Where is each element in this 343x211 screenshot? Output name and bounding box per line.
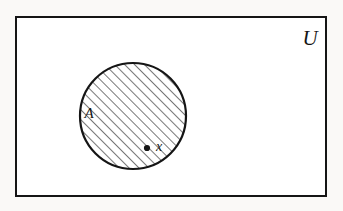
set-a-label: A — [83, 105, 94, 121]
diagram-canvas: Venn diagram: shaded circle A inside rec… — [0, 0, 343, 211]
universal-set-label: U — [302, 26, 319, 50]
venn-diagram-figure: Venn diagram: shaded circle A inside rec… — [0, 0, 343, 211]
element-x-label: x — [155, 139, 163, 154]
element-x-point — [144, 145, 150, 151]
